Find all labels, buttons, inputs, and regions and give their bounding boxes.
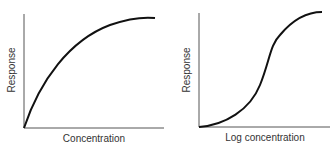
left-curve xyxy=(24,18,155,128)
right-y-label: Response xyxy=(181,47,192,92)
right-curve xyxy=(199,12,322,127)
left-y-label: Response xyxy=(6,47,17,92)
right-chart: Log concentration Response xyxy=(181,12,330,143)
left-x-label: Concentration xyxy=(63,133,125,144)
right-x-label: Log concentration xyxy=(225,132,305,143)
left-chart: Concentration Response xyxy=(6,14,164,144)
dose-response-figure: Concentration Response Log concentration… xyxy=(0,0,334,150)
